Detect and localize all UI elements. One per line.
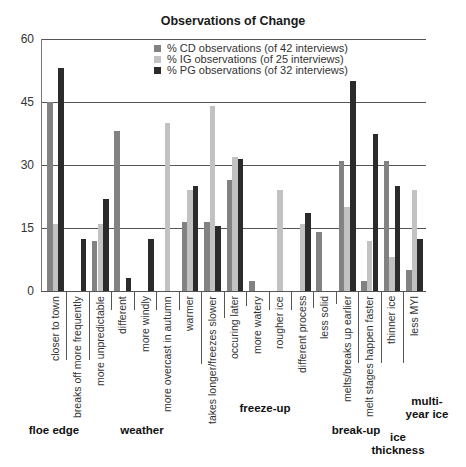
- x-category-label: melts/breaks up earlier: [341, 296, 353, 402]
- bar: [249, 281, 255, 292]
- category-divider: [89, 291, 90, 360]
- group-label-weather: weather: [116, 424, 168, 437]
- y-tick-label: 30: [4, 158, 34, 172]
- bar: [316, 232, 322, 291]
- category-divider: [134, 291, 135, 310]
- bar: [193, 186, 199, 291]
- x-category-label: melt stages happen faster: [363, 296, 375, 417]
- x-category-label: closer to town: [49, 296, 61, 361]
- y-axis: [41, 39, 42, 292]
- x-category-label: breaks off more frequently: [71, 296, 83, 418]
- x-category-label: more unpredictable: [94, 296, 106, 386]
- bar: [148, 239, 154, 292]
- legend-swatch-pg: [154, 67, 161, 74]
- legend-label-pg: % PG observations (of 32 interviews): [167, 65, 348, 76]
- bar: [395, 186, 401, 291]
- bar: [373, 134, 379, 292]
- legend: % CD observations (of 42 interviews) % I…: [154, 43, 348, 76]
- x-category-label: more windly: [139, 296, 151, 352]
- x-category-label: warmer: [183, 296, 195, 331]
- x-category-label: more watery: [251, 296, 263, 354]
- legend-swatch-cd: [154, 45, 161, 52]
- category-divider: [224, 291, 225, 318]
- category-divider: [246, 291, 247, 306]
- x-category-label: less solid: [318, 296, 330, 339]
- y-tick-label: 60: [4, 32, 34, 46]
- bar: [165, 123, 171, 291]
- category-divider: [156, 291, 157, 310]
- gridline: [41, 102, 426, 103]
- legend-item-pg: % PG observations (of 32 interviews): [154, 65, 348, 76]
- bar: [350, 81, 356, 291]
- category-divider: [179, 291, 180, 310]
- group-label-floe-edge: floe edge: [28, 424, 80, 437]
- group-label-multi-year-ice-line2: year ice: [404, 408, 450, 421]
- x-category-label: thinner ice: [385, 296, 397, 344]
- x-category-label: takes longer/freezes slower: [206, 296, 218, 424]
- group-label-freeze-up: freeze-up: [236, 402, 294, 415]
- group-label-multi-year-ice: multi- year ice: [404, 395, 450, 421]
- category-divider: [269, 291, 270, 310]
- bar: [114, 131, 120, 291]
- legend-swatch-ig: [154, 56, 161, 63]
- group-label-ice-thickness-line2: thickness: [370, 444, 426, 457]
- x-category-label: occuring later: [228, 296, 240, 359]
- bar: [417, 239, 423, 292]
- bar: [277, 190, 283, 291]
- x-category-label: rougher ice: [273, 296, 285, 349]
- x-axis: [41, 291, 426, 292]
- bar: [305, 213, 311, 291]
- group-label-multi-year-ice-line1: multi-: [404, 395, 450, 408]
- chart-title: Observations of Change: [0, 14, 466, 28]
- bar: [81, 239, 87, 292]
- x-category-label: different process: [296, 296, 308, 373]
- category-divider: [201, 291, 202, 364]
- category-divider: [313, 291, 314, 308]
- category-divider: [336, 291, 337, 304]
- bar: [58, 68, 64, 291]
- category-divider: [358, 291, 359, 363]
- x-category-label: more overcast in autumn: [161, 296, 173, 412]
- bar: [126, 278, 132, 291]
- y-tick-label: 15: [4, 221, 34, 235]
- bar: [215, 226, 221, 291]
- x-category-label: less MYI: [408, 296, 420, 336]
- gridline: [41, 39, 426, 40]
- bar: [103, 199, 109, 291]
- category-divider: [111, 291, 112, 310]
- category-divider: [381, 291, 382, 363]
- category-divider: [291, 291, 292, 310]
- y-tick-label: 45: [4, 95, 34, 109]
- category-divider: [66, 291, 67, 360]
- x-category-label: different: [116, 296, 128, 334]
- category-divider: [403, 291, 404, 363]
- bar: [238, 159, 244, 291]
- group-label-ice-thickness-line1: ice: [370, 431, 426, 444]
- y-tick-label: 0: [4, 284, 34, 298]
- group-label-ice-thickness: ice thickness: [370, 431, 426, 457]
